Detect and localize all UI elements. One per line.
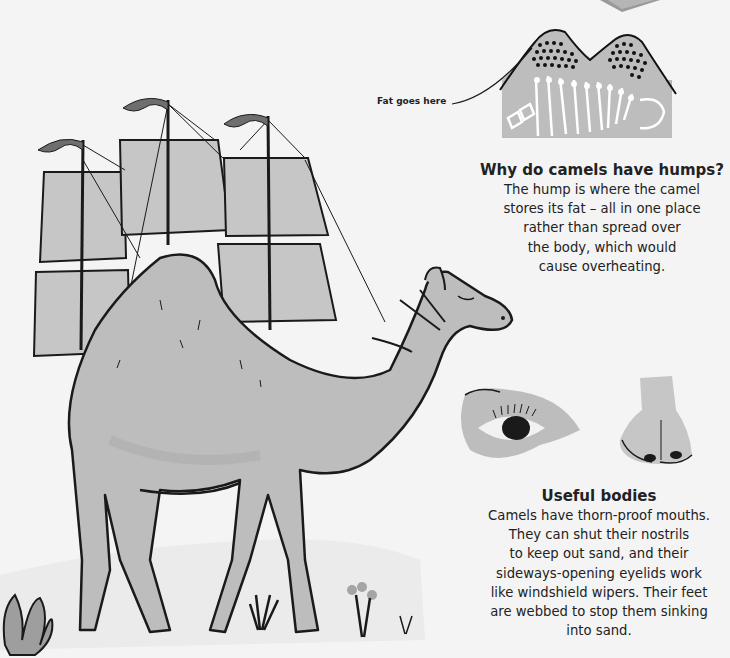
humps-section: Why do camels have humps? The hump is wh… (474, 160, 730, 276)
useful-bodies-heading: Useful bodies (468, 486, 730, 506)
humps-line: The hump is where the camel (474, 180, 730, 199)
bodies-line: to keep out sand, and their (468, 544, 730, 563)
humps-heading: Why do camels have humps? (474, 160, 730, 180)
humps-line: the body, which would (474, 238, 730, 257)
camel-nose-image (620, 376, 692, 464)
camel-eye-image (461, 388, 580, 458)
useful-bodies-section: Useful bodies Camels have thorn-proof mo… (468, 486, 730, 640)
bodies-line: They can shut their nostrils (468, 525, 730, 544)
bodies-line: sideways-opening eyelids work (468, 564, 730, 583)
fat-label: Fat goes here (377, 96, 446, 106)
bodies-line: are webbed to stop them sinking (468, 602, 730, 621)
humps-line: stores its fat – all in one place (474, 199, 730, 218)
page-tab-diamond (600, 0, 660, 12)
humps-line: rather than spread over (474, 218, 730, 237)
useful-bodies-paragraph: Camels have thorn-proof mouths. They can… (468, 506, 730, 640)
humps-line: cause overheating. (474, 257, 730, 276)
humps-paragraph: The hump is where the camel stores its f… (474, 180, 730, 276)
hump-cross-section-image (500, 29, 676, 138)
bodies-line: Camels have thorn-proof mouths. (468, 506, 730, 525)
bodies-line: into sand. (468, 621, 730, 640)
book-page: Fat goes here Why do camels have humps? … (0, 0, 730, 658)
bodies-line: like windshield wipers. Their feet (468, 583, 730, 602)
